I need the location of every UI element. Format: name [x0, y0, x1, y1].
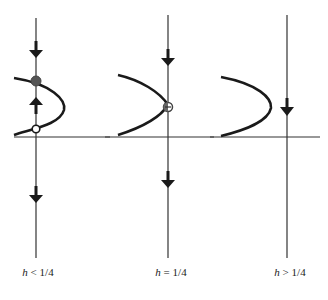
arrow-down-icon — [29, 41, 43, 58]
label-relation: = 1/4 — [161, 266, 187, 278]
semi-stable-equilibrium-dot — [164, 103, 173, 112]
label-relation: > 1/4 — [280, 266, 306, 278]
panel-2-label: h = 1/4 — [155, 266, 186, 278]
arrow-down-icon — [161, 171, 175, 188]
unstable-equilibrium-dot — [32, 125, 40, 133]
panel-1 — [14, 18, 110, 258]
panel-3 — [210, 15, 320, 258]
arrow-down-icon — [29, 186, 43, 203]
arrow-down-icon — [161, 49, 175, 66]
panel-3-label: h > 1/4 — [274, 266, 305, 278]
panel-2 — [105, 15, 214, 258]
label-relation: < 1/4 — [28, 266, 54, 278]
parabola-curve — [118, 75, 168, 135]
bifurcation-diagram — [0, 0, 328, 300]
parabola-curve — [221, 77, 271, 136]
arrow-down-icon — [280, 98, 294, 116]
arrow-up-icon — [29, 97, 43, 114]
panel-1-label: h < 1/4 — [22, 266, 53, 278]
stable-equilibrium-dot — [31, 76, 41, 86]
